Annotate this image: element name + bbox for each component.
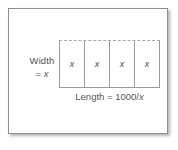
length-label-text: Length = 1000/	[75, 91, 139, 102]
rectangle-cell: x	[110, 41, 135, 87]
diagram-canvas: Width = x x x x x	[9, 9, 169, 135]
rectangle-cell: x	[85, 41, 110, 87]
figure-root: Width = x x x x x	[0, 0, 178, 150]
rectangle-cell: x	[135, 41, 159, 87]
length-label: Length = 1000/x	[59, 91, 160, 103]
cell-label: x	[145, 60, 150, 69]
width-label-variable: x	[44, 68, 49, 79]
rectangle-wrapper: x x x x	[59, 40, 160, 88]
width-label-line2: = x	[23, 68, 61, 80]
rectangle-cell: x	[60, 41, 85, 87]
cell-label: x	[70, 60, 75, 69]
subdivided-rectangle: x x x x	[59, 40, 160, 88]
width-label-line1: Width	[30, 55, 55, 66]
width-label: Width = x	[23, 55, 61, 80]
cell-label: x	[120, 60, 125, 69]
figure-panel: Width = x x x x x	[8, 8, 168, 134]
length-label-variable: x	[139, 91, 144, 102]
width-label-equals: =	[35, 68, 43, 79]
cell-label: x	[95, 60, 100, 69]
